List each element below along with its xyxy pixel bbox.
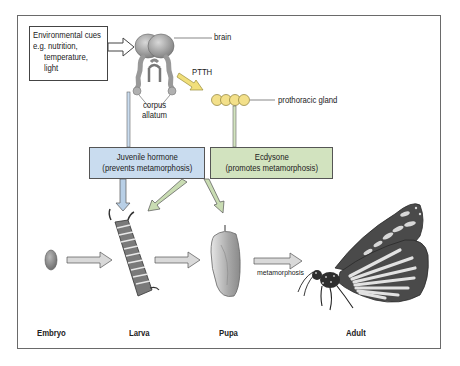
prothoracic-gland-label: prothoracic gland [278, 95, 337, 106]
env-line-2: e.g. nutrition, [33, 41, 78, 52]
adult-butterfly-icon [298, 204, 428, 310]
embryo-icon [45, 250, 57, 270]
env-to-brain-arrow [108, 38, 134, 56]
embryo-to-larva-arrow [67, 252, 112, 268]
ecdysone-title: Ecdysone [225, 152, 317, 163]
stage-label-larva: Larva [129, 328, 150, 339]
ecdysone-box: Ecdysone (promotes metamorphosis) [210, 147, 333, 179]
corpus-allatum-label-line2: allatum [142, 110, 167, 121]
ecdysone-to-pupa-arrow [204, 179, 224, 213]
juvenile-hormone-box: Juvenile hormone (prevents metamorphosis… [89, 147, 205, 179]
metamorphosis-label: metamorphosis [257, 267, 304, 278]
larva-icon [109, 209, 159, 296]
env-line-3: temperature, [44, 52, 88, 63]
environmental-cues-box: Environmental cues e.g. nutrition, tempe… [29, 26, 108, 81]
juvenile-hormone-title: Juvenile hormone [102, 152, 192, 163]
pupa-icon [211, 225, 240, 297]
ecdysone-subtitle: (promotes metamorphosis) [225, 163, 317, 174]
stage-label-pupa: Pupa [219, 328, 238, 339]
stage-label-embryo: Embryo [37, 328, 66, 339]
ptth-label: PTTH [192, 67, 212, 78]
larva-to-pupa-arrow [155, 252, 200, 268]
stage-label-adult: Adult [346, 328, 366, 339]
env-line-4: light [44, 63, 58, 74]
juvenile-hormone-subtitle: (prevents metamorphosis) [102, 163, 192, 174]
jh-to-larva-arrow [116, 179, 130, 211]
ecdysone-to-larva-arrow [148, 179, 187, 211]
brain-label: brain [214, 32, 231, 43]
prothoracic-gland-icon [212, 95, 276, 106]
jh-connector [127, 92, 130, 147]
ecdysone-connector [233, 106, 236, 147]
env-line-1: Environmental cues [33, 30, 101, 41]
